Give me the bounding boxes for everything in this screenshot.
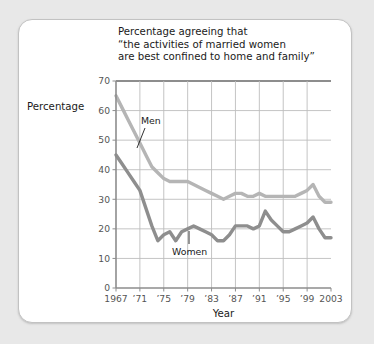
series-line-men: [116, 96, 331, 202]
text-layer: 0102030405060701967’71’75’79’83’87’91’95…: [27, 26, 343, 319]
y-axis-label: Percentage: [27, 101, 84, 112]
y-tick-label-70: 70: [98, 75, 110, 86]
x-tick-label-1991: ’91: [252, 293, 267, 304]
grid-layer: [116, 81, 331, 288]
x-tick-label-1999: ’99: [300, 293, 315, 304]
series-annotation-men: Men: [141, 115, 161, 126]
chart-title-line-3: are best confined to home and family”: [118, 51, 315, 62]
y-tick-label-40: 40: [98, 164, 110, 175]
x-tick-label-1967: 1967: [104, 293, 128, 304]
x-tick-label-1971: ’71: [133, 293, 148, 304]
y-tick-label-50: 50: [98, 134, 110, 145]
x-tick-label-1995: ’95: [276, 293, 291, 304]
x-tick-label-1987: ’87: [228, 293, 243, 304]
x-tick-label-1983: ’83: [204, 293, 219, 304]
y-tick-label-30: 30: [98, 194, 110, 205]
series-annotation-women: Women: [172, 246, 207, 257]
y-tick-label-0: 0: [104, 282, 110, 293]
x-tick-label-2003: 2003: [319, 293, 343, 304]
y-tick-label-20: 20: [98, 223, 110, 234]
y-tick-label-10: 10: [98, 253, 110, 264]
chart-title-line-2: “the activities of married women: [118, 39, 286, 50]
x-axis-label: Year: [212, 308, 235, 319]
figure-root: 0102030405060701967’71’75’79’83’87’91’95…: [0, 0, 374, 344]
x-tick-label-1979: ’79: [180, 293, 195, 304]
y-tick-label-60: 60: [98, 105, 110, 116]
x-tick-label-1975: ’75: [156, 293, 171, 304]
axis-layer: [113, 81, 332, 292]
line-chart: 0102030405060701967’71’75’79’83’87’91’95…: [0, 0, 374, 344]
chart-title-line-1: Percentage agreeing that: [118, 26, 247, 37]
